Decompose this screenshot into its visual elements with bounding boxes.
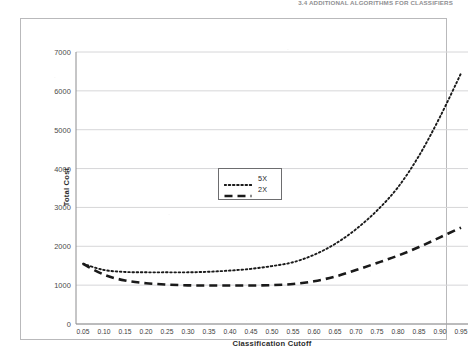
x-tick-label: 0.70 [349, 328, 362, 335]
y-tick-label: 4000 [54, 164, 71, 173]
x-tick-label: 0.90 [433, 328, 446, 335]
x-tick-label: 0.45 [244, 328, 257, 335]
legend-label: 5X [258, 174, 267, 183]
x-tick-label: 0.75 [370, 328, 383, 335]
legend-swatch-dotted-icon [224, 175, 252, 183]
x-tick-label: 0.85 [412, 328, 425, 335]
y-tick-label: 0 [67, 320, 71, 329]
x-tick-label: 0.15 [118, 328, 131, 335]
x-tick-label: 0.60 [307, 328, 320, 335]
x-tick-label: 0.95 [454, 328, 467, 335]
legend-item-5x[interactable]: 5X [224, 173, 276, 184]
legend-swatch-dashed-icon [224, 186, 252, 194]
legend-item-2x[interactable]: 2X [224, 184, 276, 195]
x-tick-label: 0.80 [391, 328, 404, 335]
chart-figure-frame: Total Cost 01000200030004000500060007000… [20, 18, 447, 340]
x-tick-label: 0.25 [160, 328, 173, 335]
x-tick-label: 0.30 [181, 328, 194, 335]
x-tick-label: 0.10 [97, 328, 110, 335]
x-axis-title: Classification Cutoff [76, 339, 468, 348]
x-tick-label: 0.40 [223, 328, 236, 335]
x-tick-label: 0.05 [76, 328, 89, 335]
x-tick-label: 0.20 [139, 328, 152, 335]
y-tick-label: 2000 [54, 242, 71, 251]
running-header: 3.4 ADDITIONAL ALGORITHMS FOR CLASSIFIER… [243, 0, 453, 9]
x-tick-label: 0.65 [328, 328, 341, 335]
plot-area: Total Cost 01000200030004000500060007000… [76, 52, 468, 324]
x-tick-label: 0.55 [286, 328, 299, 335]
x-tick-label: 0.35 [202, 328, 215, 335]
series-line-2x [83, 228, 461, 286]
chart-legend: 5X2X [218, 168, 282, 200]
y-tick-label: 1000 [54, 281, 71, 290]
legend-label: 2X [258, 185, 267, 194]
y-axis-title: Total Cost [62, 168, 71, 207]
x-tick-label: 0.50 [265, 328, 278, 335]
y-tick-label: 5000 [54, 125, 71, 134]
y-tick-label: 3000 [54, 203, 71, 212]
y-tick-label: 7000 [54, 48, 71, 57]
y-tick-label: 6000 [54, 86, 71, 95]
